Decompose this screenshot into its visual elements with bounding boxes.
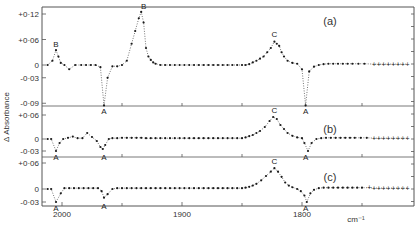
data-point (269, 120, 271, 122)
data-point (68, 68, 70, 70)
data-point (135, 137, 137, 139)
data-point (332, 187, 334, 189)
data-point (169, 64, 171, 66)
data-point (145, 187, 147, 189)
data-point (301, 137, 303, 139)
data-point (227, 187, 229, 189)
plus-marker: + (406, 135, 410, 142)
data-point (147, 55, 149, 57)
data-point (255, 183, 257, 185)
data-point (337, 187, 339, 189)
data-point (101, 190, 103, 192)
plus-marker: + (391, 61, 395, 68)
data-point (276, 118, 278, 120)
data-point (90, 64, 92, 66)
data-point (111, 137, 113, 139)
data-point (183, 187, 185, 189)
data-point (150, 59, 152, 61)
data-point (131, 187, 133, 189)
data-point (59, 142, 61, 144)
plus-marker: + (382, 185, 386, 192)
data-point (169, 137, 171, 139)
plot-frame (42, 7, 414, 206)
data-point (207, 137, 209, 139)
data-point (315, 138, 317, 140)
y-tick-label: +0·06 (18, 111, 39, 120)
data-point (50, 188, 52, 190)
plus-marker: + (372, 185, 376, 192)
data-point (78, 187, 80, 189)
data-point (193, 64, 195, 66)
data-point (327, 187, 329, 189)
data-point (330, 137, 332, 139)
plus-marker: + (382, 135, 386, 142)
data-point (313, 66, 315, 68)
plus-marker: + (382, 61, 386, 68)
data-point (60, 62, 62, 64)
data-point (356, 187, 358, 189)
peak-label: B (141, 2, 146, 11)
x-tick-label: 1800 (293, 210, 311, 219)
data-point (83, 187, 85, 189)
data-point (318, 187, 320, 189)
data-point (126, 137, 128, 139)
peak-label: A (101, 202, 107, 211)
data-point (222, 64, 224, 66)
data-point (236, 64, 238, 66)
data-point (236, 137, 238, 139)
data-point (296, 136, 298, 138)
data-point (361, 187, 363, 189)
data-point (73, 187, 75, 189)
data-point (231, 187, 233, 189)
data-point (87, 187, 89, 189)
y-tick-label: -0·09 (20, 99, 39, 108)
data-point (51, 60, 53, 62)
y-tick-label: 0 (35, 61, 40, 70)
peak-label: A (53, 153, 59, 162)
data-point (320, 137, 322, 139)
data-point (248, 63, 250, 65)
x-axis: 200019001800 (53, 202, 362, 219)
data-point (291, 135, 293, 137)
data-point (283, 55, 285, 57)
plus-marker: + (396, 135, 400, 142)
data-point (296, 63, 298, 65)
data-point (188, 187, 190, 189)
data-point (116, 65, 118, 67)
data-point (255, 132, 257, 134)
data-point (207, 64, 209, 66)
data-point (164, 187, 166, 189)
data-point (281, 176, 283, 178)
data-point (351, 187, 353, 189)
data-point (140, 187, 142, 189)
data-point (103, 197, 105, 199)
panel-b: +0·060-0·03++++++++AACA(b) (18, 106, 414, 162)
data-point (104, 144, 106, 146)
data-point (259, 58, 261, 60)
data-point (188, 64, 190, 66)
data-point (174, 187, 176, 189)
data-point (265, 175, 267, 177)
data-point (121, 187, 123, 189)
data-point (183, 137, 185, 139)
panel-label: (b) (323, 123, 336, 135)
data-point (203, 137, 205, 139)
data-point (203, 64, 205, 66)
y-tick-label: +0·06 (18, 159, 39, 168)
data-point (281, 51, 283, 53)
data-point (266, 51, 268, 53)
data-point (301, 68, 303, 70)
data-point (159, 187, 161, 189)
plus-marker: + (391, 185, 395, 192)
data-point (81, 137, 83, 139)
panels: +0·12+0·060-0·03-0·09++++++++BABCA(a)+0·… (18, 2, 414, 213)
data-point (99, 146, 101, 148)
data-point (152, 61, 154, 63)
data-point (222, 137, 224, 139)
plus-marker: + (377, 185, 381, 192)
data-point (131, 43, 133, 45)
data-point (306, 201, 308, 203)
data-point (55, 49, 57, 51)
y-tick-label: 0 (35, 185, 40, 194)
data-point (198, 64, 200, 66)
